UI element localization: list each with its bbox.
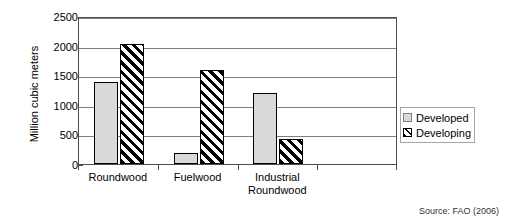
y-tick-label: 2000 [38,42,78,53]
legend-swatch-developing-icon [403,128,412,137]
bar-developing-roundwood [120,44,144,164]
legend-label-developing: Developing [416,127,471,139]
x-axis-label: Fuelwood [158,171,238,184]
bar-developing-industrial-roundwood [279,139,303,164]
bar-developing-fuelwood [200,70,224,164]
bar-developed-industrial-roundwood [253,93,277,164]
bar-developed-fuelwood [174,153,198,164]
x-axis-label: IndustrialRoundwood [238,171,318,197]
y-tick-label: 0 [38,160,78,171]
gridline [79,18,396,19]
legend-item-developed[interactable]: Developed [403,110,471,125]
legend-item-developing[interactable]: Developing [403,125,471,140]
x-axis-label: Roundwood [78,171,158,184]
chart-figure: Million cubic meters 2500200015001000500… [0,0,507,221]
legend-swatch-developed-icon [403,113,412,122]
y-tick-label: 2500 [38,12,78,23]
x-tick-mark [396,165,397,170]
y-axis-ticks: 25002000150010005000 [30,17,78,165]
x-tick-mark [78,165,79,170]
x-axis-label-line: Roundwood [238,184,318,197]
x-axis-label-line: Fuelwood [158,171,238,184]
source-note: Source: FAO (2006) [419,206,499,216]
y-tick-label: 1000 [38,101,78,112]
plot-area [78,17,397,165]
chart-legend: Developed Developing [400,107,475,143]
x-axis-label-line: Industrial [238,171,318,184]
x-tick-mark [158,165,159,170]
x-tick-mark [238,165,239,170]
x-tick-mark [317,165,318,170]
x-axis-ticks [78,165,397,170]
y-tick-label: 1500 [38,71,78,82]
y-tick-label: 500 [38,130,78,141]
legend-label-developed: Developed [416,112,469,124]
bar-developed-roundwood [94,82,118,164]
x-axis-label-line: Roundwood [78,171,158,184]
x-axis-labels: RoundwoodFuelwoodIndustrialRoundwood [78,171,397,211]
